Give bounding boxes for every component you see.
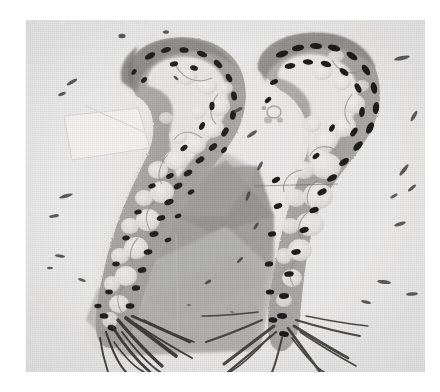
micrograph-plate (26, 20, 425, 372)
caption-area (0, 374, 440, 392)
micrograph-canvas (26, 20, 425, 372)
figure-root (0, 0, 440, 392)
